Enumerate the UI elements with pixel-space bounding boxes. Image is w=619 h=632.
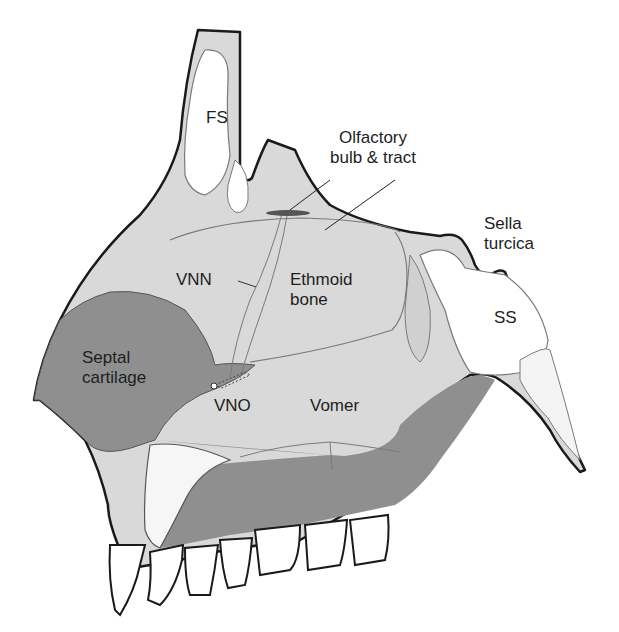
label-vnn: VNN xyxy=(176,270,212,290)
label-vomer: Vomer xyxy=(310,396,359,416)
vno-point xyxy=(211,383,217,389)
label-olfactory-bulb-tract: Olfactory bulb & tract xyxy=(330,128,416,168)
diagram-artwork xyxy=(0,0,619,632)
label-ethmoid-bone: Ethmoid bone xyxy=(290,270,352,310)
olfactory-bulb xyxy=(266,210,310,216)
label-septal-cartilage: Septal cartilage xyxy=(82,348,146,388)
label-sphenoid-sinus: SS xyxy=(494,308,517,328)
label-frontal-sinus: FS xyxy=(206,108,228,128)
label-sella-turcica: Sella turcica xyxy=(484,214,534,254)
nasal-septum-diagram: FS Olfactory bulb & tract Sella turcica … xyxy=(0,0,619,632)
label-vno: VNO xyxy=(214,396,251,416)
